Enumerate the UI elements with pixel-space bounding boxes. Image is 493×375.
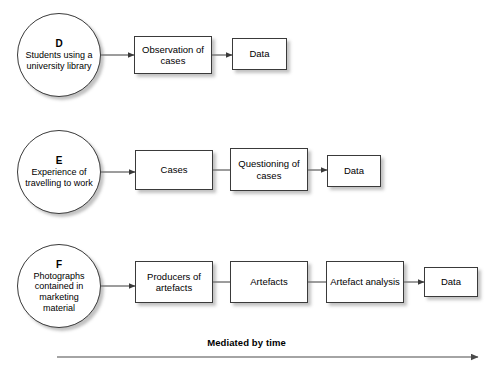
step-box-observation-of-cases[interactable]: Observation of cases bbox=[134, 36, 212, 74]
step-label: Cases bbox=[158, 164, 191, 175]
source-circle-e[interactable]: E Experience of travelling to work bbox=[17, 130, 101, 214]
step-box-data-e[interactable]: Data bbox=[327, 155, 381, 187]
circle-text-d: Students using a university library bbox=[18, 50, 100, 71]
circle-letter-e: E bbox=[56, 155, 63, 167]
step-box-artefact-analysis[interactable]: Artefact analysis bbox=[326, 261, 404, 303]
circle-letter-f: F bbox=[56, 259, 62, 271]
step-label: Data bbox=[246, 48, 272, 59]
timeline-caption: Mediated by time bbox=[0, 337, 493, 348]
step-box-questioning-of-cases[interactable]: Questioning of cases bbox=[230, 148, 308, 191]
step-label: Producers of artefacts bbox=[136, 271, 212, 293]
source-circle-f[interactable]: F Photographs contained in marketing mat… bbox=[17, 244, 101, 328]
source-circle-d[interactable]: D Students using a university library bbox=[17, 13, 101, 97]
diagram-canvas: D Students using a university library Ob… bbox=[0, 0, 493, 375]
circle-letter-d: D bbox=[55, 38, 62, 50]
circle-text-f: Photographs contained in marketing mater… bbox=[18, 271, 100, 313]
step-label: Artefact analysis bbox=[327, 276, 403, 287]
step-box-producers-of-artefacts[interactable]: Producers of artefacts bbox=[135, 261, 213, 303]
step-label: Observation of cases bbox=[135, 44, 211, 66]
step-label: Questioning of cases bbox=[231, 158, 307, 180]
step-box-data-d[interactable]: Data bbox=[232, 38, 287, 70]
step-label: Data bbox=[438, 276, 464, 287]
step-box-cases[interactable]: Cases bbox=[135, 150, 213, 190]
step-label: Data bbox=[341, 165, 367, 176]
step-box-data-f[interactable]: Data bbox=[424, 267, 478, 297]
step-box-artefacts[interactable]: Artefacts bbox=[230, 261, 308, 303]
circle-text-e: Experience of travelling to work bbox=[18, 167, 100, 188]
step-label: Artefacts bbox=[247, 276, 291, 287]
